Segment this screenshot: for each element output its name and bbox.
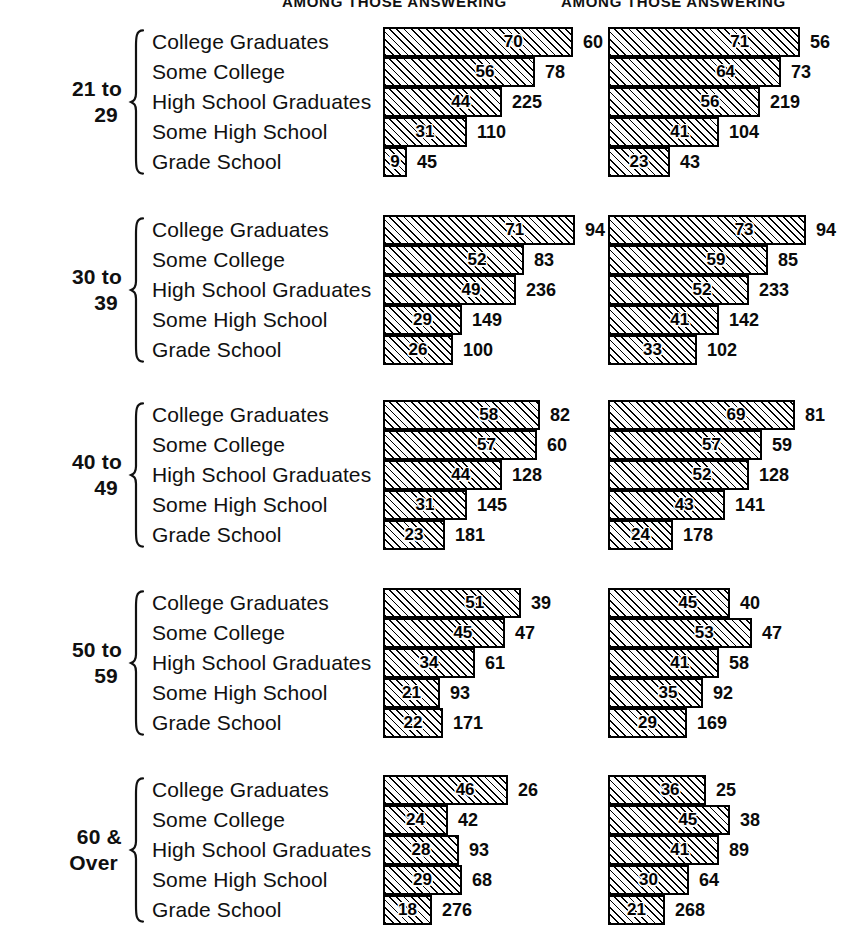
bar-cell-series-2: 52233 — [608, 275, 819, 305]
bar-percent-label: 36 — [661, 780, 680, 800]
group-rows: College Graduates46263625Some College244… — [0, 775, 851, 925]
bar-count-label: 128 — [512, 465, 542, 486]
bar-cell-series-1: 2193 — [383, 678, 510, 708]
bar-cell-series-1: 5760 — [383, 430, 607, 460]
education-level-label: Some High School — [152, 493, 328, 517]
chart-row: Some College56786473 — [0, 57, 851, 87]
education-level-label: High School Graduates — [152, 463, 371, 487]
bar: 23 — [383, 520, 445, 550]
bar-percent-label: 24 — [631, 525, 650, 545]
bar-percent-label: 52 — [467, 250, 486, 270]
education-level-label: High School Graduates — [152, 838, 371, 862]
bar: 29 — [383, 305, 462, 335]
bar-percent-label: 45 — [453, 623, 472, 643]
bar-cell-series-2: 7394 — [608, 215, 851, 245]
bar: 24 — [608, 520, 673, 550]
bar-cell-series-2: 6981 — [608, 400, 851, 430]
bar-percent-label: 30 — [639, 870, 658, 890]
bar-count-label: 169 — [697, 713, 727, 734]
chart-row: High School Graduates4412852128 — [0, 460, 851, 490]
bar-count-label: 93 — [450, 683, 470, 704]
bar-percent-label: 9 — [390, 152, 399, 172]
bar-percent-label: 64 — [716, 62, 735, 82]
education-level-label: Some College — [152, 433, 285, 457]
bar: 53 — [608, 618, 752, 648]
bar-cell-series-2: 7156 — [608, 27, 851, 57]
bar-cell-series-1: 7194 — [383, 215, 645, 245]
bar-percent-label: 51 — [465, 593, 484, 613]
bar: 28 — [383, 835, 459, 865]
bar-count-label: 94 — [585, 220, 605, 241]
education-level-label: Some High School — [152, 681, 328, 705]
bar-percent-label: 45 — [678, 810, 697, 830]
chart-row: Grade School9452343 — [0, 147, 851, 177]
bar-cell-series-1: 945 — [383, 147, 477, 177]
bar-cell-series-1: 5882 — [383, 400, 610, 430]
bar-percent-label: 73 — [735, 220, 754, 240]
bar-count-label: 268 — [675, 900, 705, 921]
bar-count-label: 43 — [680, 152, 700, 173]
bar: 57 — [608, 430, 762, 460]
bar: 18 — [383, 895, 432, 925]
bar-percent-label: 45 — [678, 593, 697, 613]
bar-percent-label: 29 — [413, 870, 432, 890]
bar: 35 — [608, 678, 703, 708]
education-level-label: High School Graduates — [152, 651, 371, 675]
bar-cell-series-1: 4626 — [383, 775, 578, 805]
education-level-label: Grade School — [152, 338, 282, 362]
bar: 70 — [383, 27, 573, 57]
chart-row: High School Graduates4422556219 — [0, 87, 851, 117]
bar: 73 — [608, 215, 806, 245]
bar-count-label: 102 — [707, 340, 737, 361]
bar-count-label: 225 — [512, 92, 542, 113]
bar-percent-label: 71 — [730, 32, 749, 52]
bar-count-label: 47 — [762, 623, 782, 644]
chart-row: College Graduates46263625 — [0, 775, 851, 805]
bar-percent-label: 41 — [670, 310, 689, 330]
bar: 21 — [608, 895, 665, 925]
bar-cell-series-1: 5283 — [383, 245, 594, 275]
education-age-bar-chart: 21 to29College Graduates70607156Some Col… — [0, 0, 851, 943]
chart-row: Some High School29683064 — [0, 865, 851, 895]
bar-count-label: 68 — [472, 870, 492, 891]
bar: 52 — [608, 460, 749, 490]
bar-cell-series-2: 3064 — [608, 865, 759, 895]
bar-count-label: 60 — [547, 435, 567, 456]
chart-row: Some College45475347 — [0, 618, 851, 648]
bar: 45 — [608, 805, 730, 835]
bar-count-label: 142 — [729, 310, 759, 331]
bar-cell-series-1: 49236 — [383, 275, 586, 305]
bar-cell-series-2: 21268 — [608, 895, 735, 925]
bar-count-label: 104 — [729, 122, 759, 143]
bar: 33 — [608, 335, 697, 365]
chart-row: High School Graduates34614158 — [0, 648, 851, 678]
bar: 57 — [383, 430, 537, 460]
bar-percent-label: 29 — [413, 310, 432, 330]
bar-count-label: 81 — [805, 405, 825, 426]
age-group-40-to-49: 40 to49College Graduates58826981Some Col… — [0, 400, 851, 550]
bar-count-label: 26 — [518, 780, 538, 801]
education-level-label: Some High School — [152, 308, 328, 332]
bar-count-label: 45 — [417, 152, 437, 173]
bar-percent-label: 41 — [670, 653, 689, 673]
bar-cell-series-1: 26100 — [383, 335, 523, 365]
bar-count-label: 38 — [740, 810, 760, 831]
chart-row: Grade School2318124178 — [0, 520, 851, 550]
education-level-label: High School Graduates — [152, 278, 371, 302]
chart-row: Some College52835985 — [0, 245, 851, 275]
group-rows: College Graduates58826981Some College576… — [0, 400, 851, 550]
bar-count-label: 233 — [759, 280, 789, 301]
education-level-label: College Graduates — [152, 218, 329, 242]
chart-row: College Graduates58826981 — [0, 400, 851, 430]
bar: 31 — [383, 490, 467, 520]
chart-row: Some High School21933592 — [0, 678, 851, 708]
bar: 41 — [608, 648, 719, 678]
chart-row: Some College57605759 — [0, 430, 851, 460]
bar-percent-label: 56 — [701, 92, 720, 112]
bar-count-label: 149 — [472, 310, 502, 331]
bar: 41 — [608, 305, 719, 335]
bar-cell-series-2: 5347 — [608, 618, 822, 648]
education-level-label: Some College — [152, 621, 285, 645]
bar-percent-label: 53 — [695, 623, 714, 643]
bar: 9 — [383, 147, 407, 177]
